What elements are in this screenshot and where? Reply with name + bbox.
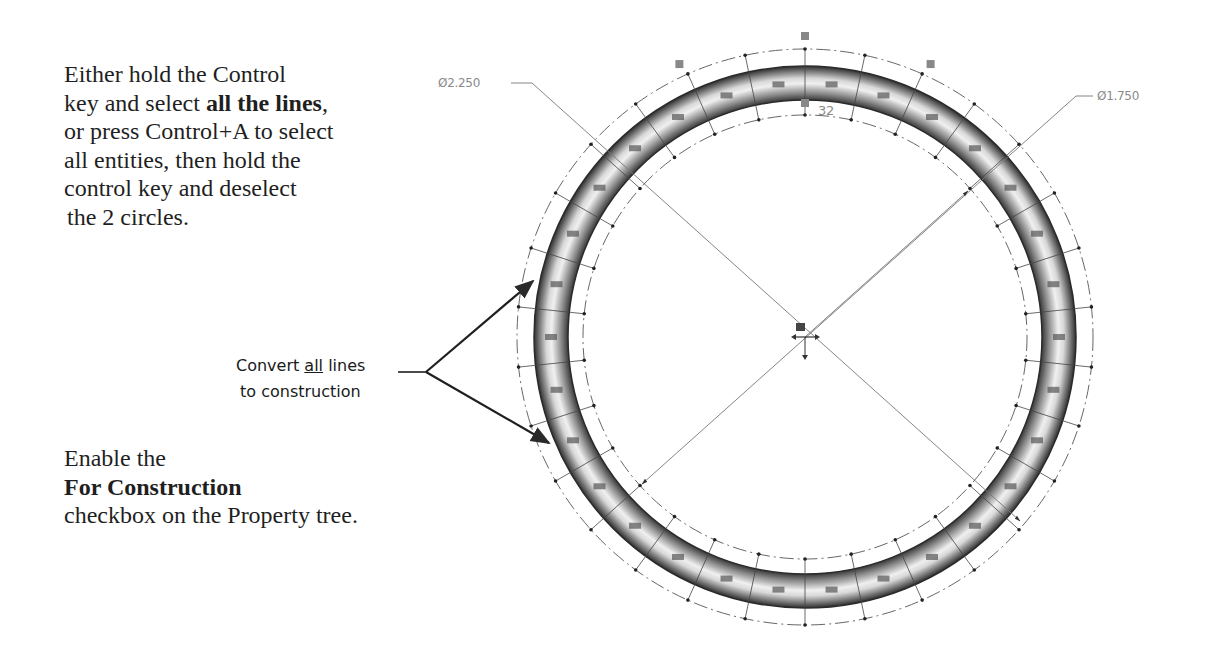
callout-arrows: [398, 281, 549, 443]
sketch-drawing: [0, 0, 1213, 664]
